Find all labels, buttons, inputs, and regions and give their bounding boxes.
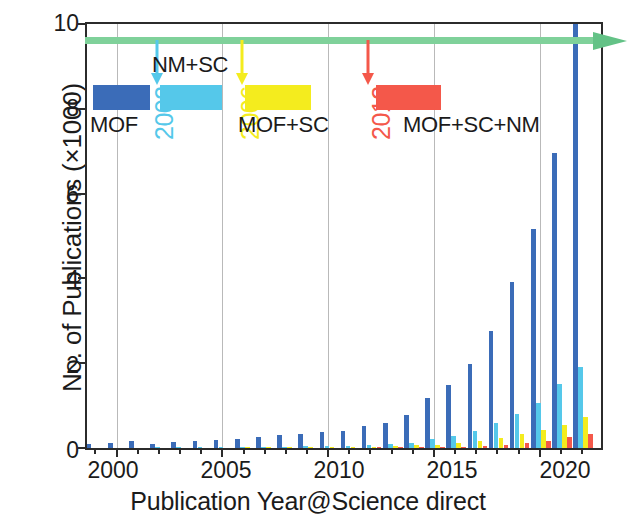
- annotation-arrow-2012: [361, 40, 375, 85]
- bar-nm-sc-2020: [536, 403, 541, 448]
- bar-mof-sc-2021: [562, 425, 567, 448]
- green-trend-arrow: [85, 30, 630, 52]
- bar-mof-sc-nm-2019: [525, 443, 530, 448]
- bar-mof-sc-2009: [308, 447, 313, 448]
- x-axis-tick-major: [116, 448, 118, 457]
- bar-mof-sc-nm-2017: [483, 446, 488, 448]
- bar-mof-2001: [129, 441, 134, 448]
- y-tick-label: 10: [53, 10, 79, 37]
- bar-mof-sc-2007: [266, 447, 271, 448]
- grid-line: [328, 24, 329, 448]
- bar-nm-sc-2015: [430, 439, 435, 448]
- bar-mof-sc-nm-2021: [567, 437, 572, 448]
- y-axis-title: No. of Publications (×1000): [57, 18, 88, 458]
- bar-mof-sc-2014: [414, 445, 419, 448]
- bar-mof-2003: [171, 442, 176, 448]
- bar-mof-2004: [193, 441, 198, 448]
- bar-mof-2009: [298, 434, 303, 448]
- bar-mof-2013: [383, 423, 388, 448]
- bar-mof-sc-nm-2020: [546, 441, 551, 448]
- bar-mof-sc-nm-2022: [588, 434, 593, 448]
- y-axis-tick: [78, 108, 87, 110]
- bar-mof-sc-nm-2012: [377, 447, 382, 448]
- x-tick-label: 2010: [313, 457, 364, 484]
- x-axis-title: Publication Year@Science direct: [0, 487, 616, 516]
- bar-mof-2019: [510, 282, 515, 448]
- x-axis-tick-minor: [264, 448, 266, 454]
- legend-label-mof-sc-nm: MOF+SC+NM: [403, 112, 540, 138]
- bar-mof-2010: [320, 432, 325, 448]
- x-axis-tick-minor: [348, 448, 350, 454]
- y-tick-label: 4: [66, 266, 79, 293]
- legend-swatch-mof: [93, 85, 150, 110]
- bar-mof-sc-nm-2015: [440, 447, 445, 448]
- bar-nm-sc-2018: [494, 423, 499, 448]
- bar-mof-2020: [531, 229, 536, 448]
- annotation-arrow-2006: [235, 40, 249, 85]
- legend-label-mof-sc: MOF+SC: [238, 112, 329, 138]
- bar-nm-sc-2021: [557, 384, 562, 448]
- y-axis-tick: [78, 277, 87, 279]
- x-axis-tick-minor: [412, 448, 414, 454]
- x-axis-tick-minor: [560, 448, 562, 454]
- x-axis-tick-minor: [200, 448, 202, 454]
- bar-mof-2012: [362, 426, 367, 448]
- bar-mof-sc-2019: [520, 434, 525, 448]
- x-tick-label: 2005: [200, 457, 251, 484]
- bar-mof-sc-2016: [456, 443, 461, 448]
- x-axis-tick-major: [221, 448, 223, 457]
- bar-mof-2018: [489, 331, 494, 448]
- legend-label-mof: MOF: [90, 112, 138, 138]
- bar-mof-sc-2011: [351, 447, 356, 448]
- bar-mof-2005: [214, 440, 219, 448]
- bar-mof-2006: [235, 439, 240, 448]
- x-tick-label: 2015: [426, 457, 477, 484]
- legend-label-nm-sc: NM+SC: [152, 52, 228, 78]
- bar-mof-sc-2012: [372, 447, 377, 448]
- bar-mof-sc-2020: [541, 430, 546, 448]
- bar-mof-sc-nm-2013: [398, 447, 403, 448]
- bar-mof-sc-2018: [499, 438, 504, 448]
- bar-nm-sc-2016: [451, 436, 456, 448]
- bar-nm-sc-2017: [473, 431, 478, 448]
- x-axis-tick-minor: [137, 448, 139, 454]
- bar-mof-2022: [573, 24, 578, 448]
- x-axis-tick-minor: [94, 448, 96, 454]
- x-axis-tick-minor: [285, 448, 287, 454]
- bar-mof-2008: [277, 435, 282, 448]
- x-axis-tick-minor: [179, 448, 181, 454]
- bar-mof-1999: [87, 444, 92, 448]
- bar-mof-2002: [150, 444, 155, 448]
- x-axis-tick-minor: [581, 448, 583, 454]
- bar-nm-sc-2019: [515, 414, 520, 448]
- y-tick-label: 2: [66, 352, 79, 379]
- y-axis-tick: [78, 193, 87, 195]
- bar-mof-sc-2010: [330, 447, 335, 448]
- bar-mof-2011: [341, 431, 346, 448]
- x-axis-tick-minor: [243, 448, 245, 454]
- x-axis-tick-minor: [454, 448, 456, 454]
- x-axis-tick-minor: [496, 448, 498, 454]
- annotation-year-2002: 2002: [150, 86, 179, 140]
- bar-mof-sc-2008: [287, 447, 292, 448]
- bar-mof-2017: [468, 364, 473, 448]
- x-axis-tick-minor: [158, 448, 160, 454]
- bar-mof-sc-nm-2016: [461, 447, 466, 448]
- bar-mof-sc-2013: [393, 446, 398, 448]
- bar-mof-sc-2006: [245, 447, 250, 448]
- y-axis-tick: [78, 362, 87, 364]
- x-axis-tick-major: [433, 448, 435, 457]
- grid-line: [540, 24, 541, 448]
- bar-mof-2016: [446, 385, 451, 448]
- y-axis-tick: [78, 447, 87, 449]
- x-axis-tick-minor: [369, 448, 371, 454]
- x-axis-tick-major: [327, 448, 329, 457]
- bar-mof-sc-2022: [583, 417, 588, 448]
- bar-mof-sc-2017: [478, 441, 483, 448]
- grid-line: [222, 24, 223, 448]
- bar-mof-sc-nm-2014: [419, 447, 424, 448]
- bar-mof-2007: [256, 437, 261, 448]
- x-axis-tick-minor: [391, 448, 393, 454]
- bar-mof-2021: [552, 153, 557, 448]
